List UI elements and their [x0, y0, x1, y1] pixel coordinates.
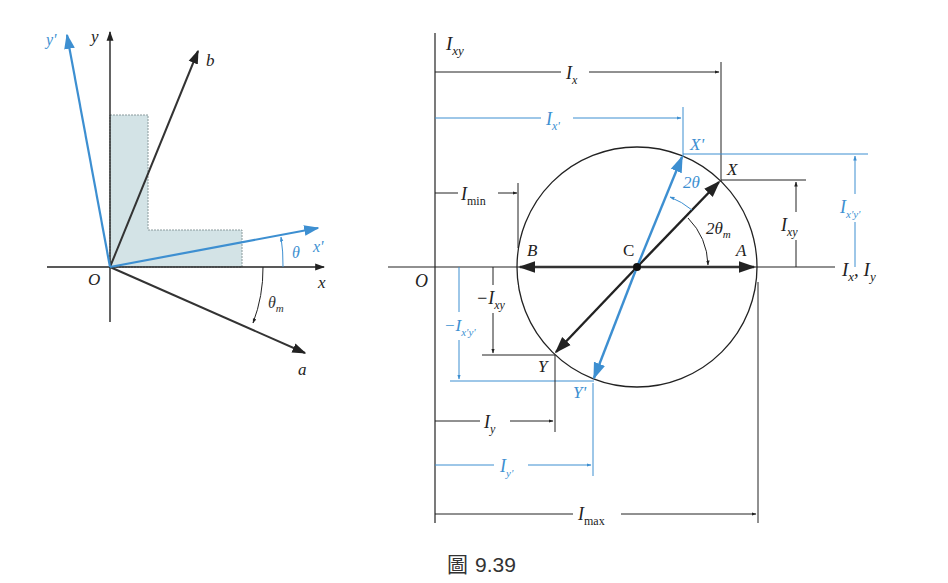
mohr-origin-label: O	[415, 271, 428, 291]
diameter-cx-prime	[637, 157, 682, 267]
center-label: C	[623, 241, 634, 260]
cross-section-diagram: O x y x' y' b a θ θm	[44, 27, 326, 379]
point-y-prime-label: Y'	[573, 383, 586, 402]
mohr-horizontal-axis-label: Ix, Iy	[841, 259, 876, 284]
figure-caption: 圖 9.39	[447, 553, 516, 576]
x-prime-label: x'	[312, 238, 324, 255]
mohr-vertical-axis-label: Ixy	[445, 33, 464, 58]
diameter-cy-prime	[594, 267, 637, 378]
point-y-label: Y	[538, 357, 549, 376]
figure-canvas: O x y x' y' b a θ θm Ix	[0, 0, 948, 583]
a-axis-label: a	[298, 360, 307, 379]
caption-prefix: 圖	[447, 553, 468, 576]
two-theta-m-label: 2θm	[706, 219, 731, 240]
theta-m-arc	[253, 267, 263, 323]
two-theta-label: 2θ	[683, 173, 700, 192]
point-a-label: A	[735, 241, 747, 260]
y-axis-label: y	[89, 27, 99, 46]
origin-label: O	[88, 270, 100, 289]
point-x-label: X	[726, 160, 738, 179]
caption-number: 9.39	[475, 553, 516, 576]
y-prime-axis	[67, 35, 110, 267]
two-theta-m-arc	[688, 218, 708, 265]
point-b-label: B	[527, 241, 538, 260]
theta-label: θ	[292, 244, 300, 261]
theta-arc	[281, 237, 283, 267]
x-axis-label: x	[317, 273, 326, 292]
mohr-circle-diagram: Ix Ix' Imin Ixy Ix'y' −Ixy −Ix'y'	[388, 33, 876, 528]
diameter-cy	[556, 267, 637, 352]
l-shaped-section	[110, 115, 242, 267]
two-theta-arc	[670, 197, 692, 210]
b-axis-label: b	[206, 51, 215, 70]
point-x-prime-label: X'	[689, 135, 704, 154]
center-point	[633, 263, 641, 271]
theta-m-label: θm	[268, 294, 284, 314]
y-prime-label: y'	[44, 31, 57, 49]
